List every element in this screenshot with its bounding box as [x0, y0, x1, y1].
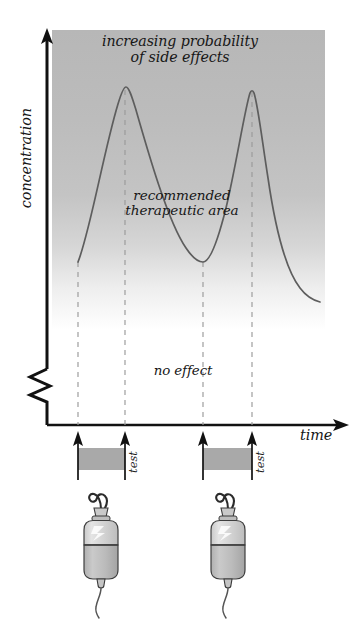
- iv-tube: [223, 588, 228, 618]
- iv-drip-chamber: [97, 579, 105, 588]
- y-axis-label: concentration: [18, 98, 34, 218]
- test-window-2: [198, 431, 257, 480]
- iv-drip-chamber: [224, 579, 232, 588]
- gradient-panel: [52, 30, 325, 330]
- test-bar-2: [203, 448, 252, 470]
- y-axis-break-zigzag: [30, 369, 50, 425]
- test-bar-1: [78, 448, 125, 470]
- x-axis-label: time: [300, 427, 332, 443]
- test-window-1: [73, 431, 130, 480]
- pharmacokinetics-figure: increasing probability of side effects r…: [0, 0, 363, 628]
- iv-hook: [216, 494, 234, 509]
- iv-bag-icon-1: [84, 494, 118, 618]
- iv-hook: [89, 494, 107, 509]
- annotation-no-effect: no effect: [128, 363, 238, 378]
- iv-tube: [96, 588, 101, 618]
- iv-bag-body-bottom: [211, 545, 245, 579]
- iv-bag-body-top: [211, 521, 245, 546]
- iv-bag-icon-2: [211, 494, 245, 618]
- test-label-1: test: [126, 447, 140, 477]
- annotation-therapeutic-area: recommended therapeutic area: [98, 188, 266, 218]
- test-label-2: test: [253, 447, 267, 477]
- iv-bag-body-top: [84, 521, 118, 546]
- annotation-side-effects: increasing probability of side effects: [82, 34, 278, 66]
- figure-canvas: [0, 0, 363, 628]
- iv-bag-body-bottom: [84, 545, 118, 579]
